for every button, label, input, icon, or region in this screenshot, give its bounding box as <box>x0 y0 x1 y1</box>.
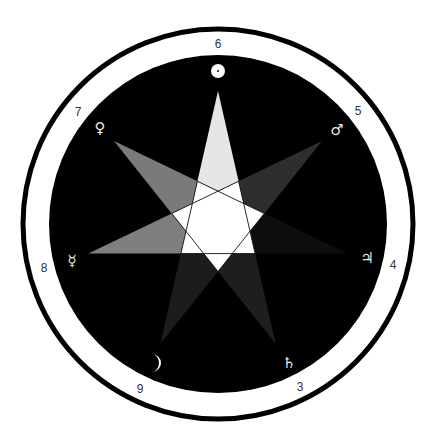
venus-icon: ♀ <box>95 119 106 137</box>
number-label-3: 3 <box>297 380 304 394</box>
number-label-7: 7 <box>75 105 82 119</box>
number-label-6: 6 <box>215 37 222 51</box>
mars-icon: ♂ <box>330 121 343 139</box>
jupiter-icon: ♃ <box>360 249 373 267</box>
number-label-5: 5 <box>355 104 362 118</box>
number-label-9: 9 <box>137 382 144 396</box>
number-label-8: 8 <box>41 261 48 275</box>
sun-icon <box>211 64 225 78</box>
heptagram-diagram: ♂♃♄☿♀ 6543987 <box>0 0 435 446</box>
number-label-4: 4 <box>390 258 397 272</box>
saturn-icon: ♄ <box>282 354 295 372</box>
mercury-icon: ☿ <box>67 252 76 270</box>
